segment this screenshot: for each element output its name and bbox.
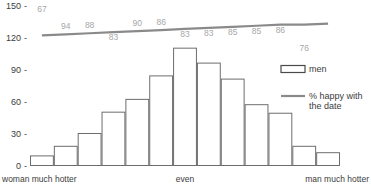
line-data-label: 67	[37, 4, 47, 14]
bar	[78, 134, 101, 166]
line-data-label: 100	[321, 0, 335, 1]
line-data-label: 85	[252, 26, 262, 36]
y-axis-tick-dash: -	[24, 65, 27, 75]
legend-swatch-bar-icon	[281, 66, 305, 73]
bar	[174, 48, 197, 165]
legend-label-happy-line2: the date	[309, 101, 342, 111]
bar	[197, 63, 220, 165]
bar	[269, 113, 292, 165]
bar	[54, 146, 77, 165]
y-axis-tick-label: 90	[11, 65, 21, 75]
y-axis-tick-label: 120	[6, 33, 21, 43]
bar	[31, 156, 54, 166]
bar	[150, 76, 173, 166]
line-data-label: 86	[156, 17, 166, 27]
line-data-label: 83	[180, 29, 190, 39]
bar	[245, 105, 268, 166]
bar	[221, 79, 244, 165]
line-data-label: 76	[299, 43, 309, 53]
y-axis-tick-group: 150 - 120 - 90 - 60 - 30 - 0 -	[6, 1, 27, 171]
line-data-label: 83	[204, 28, 214, 38]
line-data-label: 88	[85, 20, 95, 30]
x-axis-label-center: even	[176, 174, 195, 184]
y-axis-tick-dash: -	[24, 97, 27, 107]
line-data-label: 94	[61, 21, 71, 31]
y-axis-tick-label: 60	[11, 97, 21, 107]
bar	[126, 99, 149, 165]
y-axis-tick-label: 0	[16, 161, 21, 171]
line-data-labels: 679488839086838385858676100	[37, 0, 335, 53]
bar	[102, 112, 125, 165]
y-axis-tick-label: 30	[11, 129, 21, 139]
y-axis-tick-label: 150	[6, 1, 21, 11]
y-axis-tick-dash: -	[24, 33, 27, 43]
y-axis-tick-dash: -	[24, 161, 27, 171]
line-data-label: 90	[133, 18, 143, 28]
chart-legend: men % happy with the date	[281, 64, 363, 111]
chart-canvas: 150 - 120 - 90 - 60 - 30 - 0 - 679488839…	[0, 0, 371, 195]
y-axis-tick-dash: -	[24, 1, 27, 11]
bar	[293, 146, 316, 165]
chart-container: 150 - 120 - 90 - 60 - 30 - 0 - 679488839…	[0, 0, 371, 195]
legend-label-men: men	[309, 64, 327, 74]
line-data-label: 86	[276, 25, 286, 35]
line-data-label: 83	[109, 32, 119, 42]
line-data-label: 85	[228, 27, 238, 37]
x-axis-label-right: man much hotter	[305, 174, 369, 184]
x-axis-label-left: woman much hotter	[1, 174, 77, 184]
legend-label-happy-line1: % happy with	[309, 91, 363, 101]
bar	[317, 153, 340, 166]
y-axis-tick-dash: -	[24, 129, 27, 139]
x-axis-category-labels: woman much hotter even man much hotter	[1, 174, 369, 184]
